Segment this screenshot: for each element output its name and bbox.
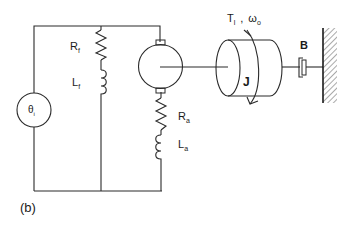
armature-inductor: La: [156, 135, 188, 162]
damper-label: B: [300, 39, 308, 51]
armature-inductor-label: La: [178, 138, 188, 152]
dc-motor: [139, 40, 229, 93]
inertia-label: J: [243, 75, 250, 89]
damper: B: [282, 39, 323, 77]
figure-caption: (b): [20, 200, 36, 215]
voltage-source: θi: [17, 93, 51, 127]
fixed-wall: [323, 28, 337, 103]
field-inductor: Lf: [72, 70, 106, 98]
load-label: Tl,ωo: [227, 12, 261, 26]
field-resistor: Rf: [70, 30, 106, 60]
circuit-wires: [34, 26, 162, 191]
armature-resistor: Ra: [156, 98, 190, 130]
armature-resistor-label: Ra: [178, 110, 190, 124]
rotation-arrow-icon: [244, 30, 259, 104]
inertia-cylinder: J: [216, 40, 282, 96]
dc-motor-diagram: θi Rf Lf Ra La: [0, 0, 351, 228]
field-inductor-label: Lf: [72, 76, 80, 90]
field-resistor-label: Rf: [70, 40, 80, 54]
source-label: θi: [28, 104, 35, 117]
